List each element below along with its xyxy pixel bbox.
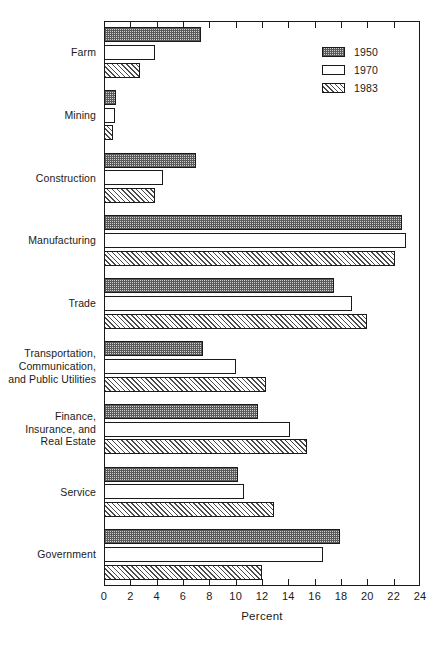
x-axis-tick-label: 24: [405, 590, 435, 602]
legend-label: 1970: [354, 64, 378, 76]
category-label: Farm: [71, 46, 96, 59]
category-label: Trade: [68, 297, 96, 310]
category-label: Government: [37, 548, 96, 561]
bar-1983: [104, 377, 266, 392]
bar-1983: [104, 125, 113, 140]
category-label: Finance, Insurance, and Real Estate: [25, 410, 96, 448]
x-axis-tick: [367, 21, 368, 28]
x-axis-tick: [236, 579, 237, 586]
bar-1983: [104, 251, 395, 266]
x-axis-tick: [315, 579, 316, 586]
bar-1950: [104, 153, 196, 168]
legend-swatch-icon: [322, 83, 345, 93]
bar-1970: [104, 170, 163, 185]
x-axis-tick: [183, 579, 184, 586]
bar-1983: [104, 63, 140, 78]
bar-1983: [104, 502, 274, 517]
bar-1950: [104, 404, 258, 419]
x-axis-tick: [288, 21, 289, 28]
legend-label: 1983: [354, 82, 378, 94]
category-label: Mining: [64, 109, 96, 122]
bar-1950: [104, 467, 238, 482]
bar-1983: [104, 439, 307, 454]
x-axis-tick: [367, 579, 368, 586]
x-axis-title: Percent: [104, 610, 420, 622]
x-axis-tick: [262, 579, 263, 586]
legend-label: 1950: [354, 46, 378, 58]
legend: 195019701983: [322, 45, 378, 99]
bar-1950: [104, 215, 402, 230]
x-axis-tick: [262, 21, 263, 28]
x-axis-tick: [315, 21, 316, 28]
x-axis-tick: [209, 579, 210, 586]
x-axis-tick: [236, 21, 237, 28]
legend-swatch-icon: [322, 65, 345, 75]
category-label: Manufacturing: [28, 234, 96, 247]
bar-1950: [104, 90, 116, 105]
bar-1970: [104, 359, 236, 374]
x-axis-tick: [157, 579, 158, 586]
x-axis-tick: [209, 21, 210, 28]
bar-1950: [104, 278, 334, 293]
bar-1970: [104, 422, 290, 437]
bar-1970: [104, 108, 115, 123]
bar-1983: [104, 188, 155, 203]
legend-item: 1983: [322, 81, 378, 95]
bar-1970: [104, 547, 323, 562]
x-axis-tick: [288, 579, 289, 586]
bar-chart: 024681012141618202224PercentFarmMiningCo…: [0, 0, 445, 649]
x-axis-tick: [341, 579, 342, 586]
bar-1950: [104, 529, 340, 544]
x-axis-tick: [341, 21, 342, 28]
x-axis-tick: [394, 21, 395, 28]
bar-1983: [104, 314, 367, 329]
category-label: Service: [60, 486, 96, 499]
bar-1983: [104, 565, 262, 580]
bar-1970: [104, 45, 155, 60]
bar-1950: [104, 341, 203, 356]
bar-1970: [104, 233, 406, 248]
bar-1970: [104, 296, 352, 311]
legend-item: 1950: [322, 45, 378, 59]
category-label: Construction: [36, 172, 96, 185]
category-label: Transportation, Communication, and Publi…: [8, 347, 96, 385]
bar-1950: [104, 27, 201, 42]
x-axis-tick: [394, 579, 395, 586]
bar-1970: [104, 484, 244, 499]
legend-item: 1970: [322, 63, 378, 77]
legend-swatch-icon: [322, 47, 345, 57]
x-axis-tick: [130, 579, 131, 586]
